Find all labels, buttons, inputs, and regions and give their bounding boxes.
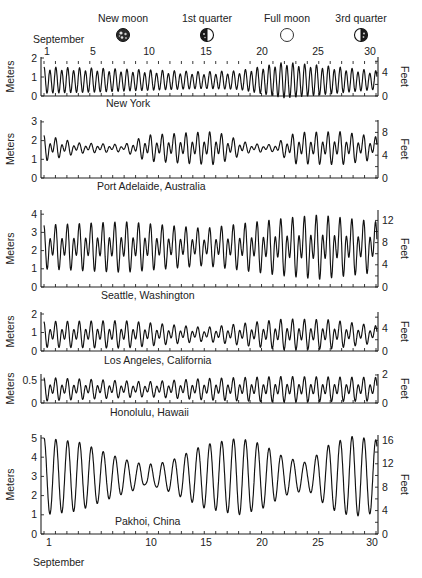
feet-tick-label: 4 — [382, 149, 388, 161]
feet-tick-label: 0 — [382, 345, 388, 357]
moon-phase-label-new: New moon — [98, 12, 148, 24]
feet-tick-label: 4 — [382, 258, 388, 270]
tide-curve — [44, 132, 377, 165]
bottom-day-label: 15 — [200, 536, 212, 548]
meter-tick-label: 1 — [31, 71, 37, 83]
bottom-day-label: 1 — [46, 536, 52, 548]
top-day-label: 10 — [143, 45, 155, 57]
meter-tick-label: 0 — [31, 172, 37, 184]
panel-los-angeles: 01204MetersFeet — [4, 308, 411, 357]
feet-tick-label: 4 — [382, 322, 388, 334]
meter-tick-label: 0.5 — [22, 374, 37, 386]
moon-phase-label-third-quarter: 3rd quarter — [335, 12, 387, 24]
feet-tick-label: 0 — [382, 528, 388, 540]
feet-tick-label: 4 — [382, 66, 388, 78]
meter-tick-label: 4 — [31, 208, 37, 220]
panel-seattle: 0123404812MetersFeet — [4, 208, 411, 293]
feet-tick-label: 8 — [382, 236, 388, 248]
meters-axis-label: Meters — [4, 133, 16, 165]
meter-tick-label: 1 — [31, 262, 37, 274]
feet-tick-label: 8 — [382, 481, 388, 493]
bottom-day-label: 10 — [145, 536, 157, 548]
meter-tick-label: 1 — [31, 153, 37, 165]
top-day-label: 15 — [200, 45, 212, 57]
meters-axis-label: Meters — [4, 315, 16, 347]
meters-axis-label: Meters — [4, 468, 16, 500]
panel-honolulu: 00.502MetersFeet — [4, 368, 411, 408]
month-label-bottom: September — [33, 556, 85, 568]
bottom-day-tick-labels: 1 10 15 20 25 30 — [46, 536, 378, 548]
tide-curve — [44, 319, 377, 350]
top-day-label: 30 — [364, 45, 376, 57]
tide-curve — [44, 437, 377, 516]
feet-tick-label: 16 — [382, 434, 394, 446]
meter-tick-label: 0 — [31, 345, 37, 357]
bottom-day-label: 25 — [312, 536, 324, 548]
moon-phase-header: New moon 1st quarter Full moon 3rd quart… — [33, 12, 387, 45]
meter-tick-label: 2 — [31, 308, 37, 320]
feet-axis-label: Feet — [399, 66, 411, 87]
meter-tick-label: 0 — [31, 528, 37, 540]
meter-tick-label: 5 — [31, 432, 37, 444]
meter-tick-label: 3 — [31, 115, 37, 127]
top-day-tick-labels: 1 5 10 15 20 25 30 — [44, 45, 376, 57]
location-label-new-york: New York — [106, 97, 151, 109]
meter-tick-label: 2 — [31, 134, 37, 146]
meters-axis-label: Meters — [4, 232, 16, 264]
third-quarter-moon-icon — [355, 29, 368, 42]
meters-axis-label: Meters — [4, 372, 16, 404]
top-day-label: 5 — [90, 45, 96, 57]
feet-tick-label: 12 — [382, 214, 394, 226]
feet-tick-label: 8 — [382, 126, 388, 138]
moon-phase-label-first-quarter: 1st quarter — [182, 12, 233, 24]
meter-tick-label: 4 — [31, 451, 37, 463]
meter-tick-label: 0 — [31, 397, 37, 409]
feet-tick-label: 2 — [382, 368, 388, 380]
meters-axis-label: Meters — [4, 60, 16, 92]
meter-tick-label: 1 — [31, 326, 37, 338]
feet-tick-label: 0 — [382, 90, 388, 102]
feet-tick-label: 0 — [382, 172, 388, 184]
meter-tick-label: 0 — [31, 281, 37, 293]
location-label-port-adelaide: Port Adelaide, Australia — [97, 180, 206, 192]
meter-tick-label: 2 — [31, 244, 37, 256]
location-label-pakhoi: Pakhoi, China — [115, 515, 181, 527]
bottom-day-label: 30 — [366, 536, 378, 548]
panel-pakhoi: 0123450481216MetersFeet — [4, 432, 411, 540]
meter-tick-label: 3 — [31, 470, 37, 482]
tide-curve — [44, 377, 377, 403]
feet-axis-label: Feet — [399, 378, 411, 399]
feet-axis-label: Feet — [399, 321, 411, 342]
tide-curve — [44, 63, 377, 98]
meter-tick-label: 2 — [31, 52, 37, 64]
top-day-label: 1 — [44, 45, 50, 57]
location-label-seattle: Seattle, Washington — [101, 289, 195, 301]
first-quarter-moon-icon — [201, 29, 214, 42]
feet-axis-label: Feet — [399, 238, 411, 259]
month-label-top: September — [33, 33, 85, 45]
top-day-label: 25 — [312, 45, 324, 57]
feet-tick-label: 4 — [382, 504, 388, 516]
bottom-day-label: 20 — [256, 536, 268, 548]
feet-tick-label: 0 — [382, 397, 388, 409]
meter-tick-label: 1 — [31, 508, 37, 520]
meter-tick-label: 0 — [31, 90, 37, 102]
moon-phase-label-full: Full moon — [264, 12, 310, 24]
location-label-honolulu: Honolulu, Hawaii — [110, 406, 189, 418]
tide-curve — [44, 215, 377, 279]
feet-tick-label: 12 — [382, 457, 394, 469]
feet-axis-label: Feet — [399, 138, 411, 159]
new-moon-icon — [117, 29, 130, 42]
location-label-los-angeles: Los Angeles, California — [104, 354, 212, 366]
feet-axis-label: Feet — [399, 474, 411, 495]
panel-new-york: 01204MetersFeet — [4, 52, 411, 102]
meter-tick-label: 2 — [31, 489, 37, 501]
panel-port-adelaide: 0123048MetersFeet — [4, 115, 411, 183]
meter-tick-label: 3 — [31, 226, 37, 238]
tide-figure: New moon 1st quarter Full moon 3rd quart… — [0, 0, 422, 578]
full-moon-icon — [281, 29, 294, 42]
top-day-label: 20 — [256, 45, 268, 57]
feet-tick-label: 0 — [382, 281, 388, 293]
